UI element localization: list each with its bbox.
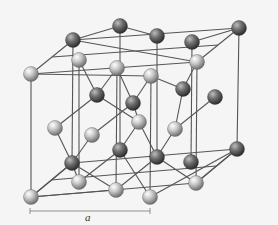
lattice-constant-label: a: [85, 211, 91, 223]
diamond-lattice-diagram: a: [0, 0, 278, 225]
bonds: [31, 26, 239, 197]
lattice-svg: [0, 0, 278, 225]
dark-atoms: [65, 19, 247, 171]
